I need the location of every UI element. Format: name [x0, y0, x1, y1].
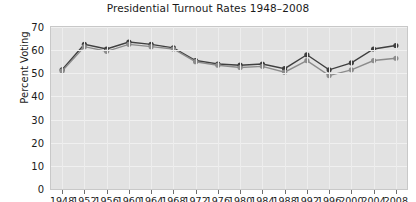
x-tick-mark	[196, 190, 197, 194]
chart-title: Presidential Turnout Rates 1948–2008	[0, 2, 416, 14]
gridline-vertical	[107, 27, 108, 189]
series-line	[62, 44, 396, 75]
gridline-vertical	[307, 27, 308, 189]
x-tick-label: 1948	[50, 195, 74, 202]
gridline-horizontal	[51, 73, 407, 74]
x-tick-mark	[129, 190, 130, 194]
gridline-vertical	[329, 27, 330, 189]
gridline-vertical	[374, 27, 375, 189]
x-tick-mark	[62, 190, 63, 194]
y-tick-label: 10	[31, 160, 44, 171]
x-tick-mark	[173, 190, 174, 194]
turnout-line-chart: Presidential Turnout Rates 1948–2008 Per…	[0, 0, 416, 202]
x-tick-mark	[84, 190, 85, 194]
gridline-vertical	[285, 27, 286, 189]
gridline-horizontal	[51, 27, 407, 28]
y-tick-label: 70	[31, 22, 44, 33]
x-tick-label: 1952	[72, 195, 96, 202]
x-tick-label: 2008	[384, 195, 408, 202]
x-tick-mark	[285, 190, 286, 194]
gridline-vertical	[84, 27, 85, 189]
x-tick-label: 1968	[161, 195, 185, 202]
x-tick-mark	[240, 190, 241, 194]
x-tick-label: 2000	[339, 195, 363, 202]
gridline-horizontal	[51, 166, 407, 167]
x-tick-label: 1992	[295, 195, 319, 202]
y-tick-label: 40	[31, 91, 44, 102]
x-axis-ticks: 1948195219561960196419681972197619801984…	[50, 190, 408, 202]
x-tick-mark	[329, 190, 330, 194]
gridline-vertical	[62, 27, 63, 189]
x-tick-mark	[218, 190, 219, 194]
y-tick-label: 0	[38, 184, 44, 195]
y-tick-label: 20	[31, 137, 44, 148]
x-tick-label: 1964	[139, 195, 163, 202]
x-tick-mark	[262, 190, 263, 194]
y-tick-label: 30	[31, 114, 44, 125]
y-tick-label: 60	[31, 45, 44, 56]
gridline-vertical	[196, 27, 197, 189]
x-tick-mark	[307, 190, 308, 194]
gridline-vertical	[173, 27, 174, 189]
gridline-vertical	[262, 27, 263, 189]
x-tick-label: 1972	[184, 195, 208, 202]
gridline-vertical	[129, 27, 130, 189]
plot-area	[50, 26, 408, 190]
x-tick-label: 1984	[250, 195, 274, 202]
gridline-vertical	[151, 27, 152, 189]
gridline-horizontal	[51, 96, 407, 97]
x-tick-label: 1960	[117, 195, 141, 202]
gridline-horizontal	[51, 50, 407, 51]
x-tick-label: 1988	[273, 195, 297, 202]
x-tick-label: 1956	[95, 195, 119, 202]
x-tick-mark	[396, 190, 397, 194]
x-tick-mark	[151, 190, 152, 194]
x-tick-label: 1996	[317, 195, 341, 202]
series-layer	[51, 27, 407, 189]
gridline-horizontal	[51, 143, 407, 144]
x-tick-mark	[374, 190, 375, 194]
y-axis-ticks: 010203040506070	[0, 0, 50, 202]
x-tick-label: 2004	[362, 195, 386, 202]
gridline-vertical	[396, 27, 397, 189]
x-tick-label: 1976	[206, 195, 230, 202]
x-tick-mark	[107, 190, 108, 194]
gridline-vertical	[218, 27, 219, 189]
gridline-horizontal	[51, 120, 407, 121]
y-tick-label: 50	[31, 68, 44, 79]
x-tick-label: 1980	[228, 195, 252, 202]
x-tick-mark	[351, 190, 352, 194]
gridline-vertical	[351, 27, 352, 189]
gridline-vertical	[240, 27, 241, 189]
